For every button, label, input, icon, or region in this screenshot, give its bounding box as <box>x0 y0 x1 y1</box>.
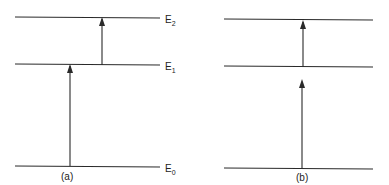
panel-b: (b) <box>224 19 373 183</box>
arrowhead-icon <box>67 64 73 73</box>
level-e0-line <box>15 166 160 167</box>
panel-a-caption: (a) <box>61 171 73 182</box>
level-middle-line <box>224 66 373 67</box>
level-top-line <box>224 19 373 20</box>
arrowhead-icon <box>299 79 305 88</box>
panel-a: E2 E1 E0 (a) <box>15 14 176 182</box>
level-bottom-line <box>224 168 373 169</box>
arrowhead-icon <box>300 20 306 29</box>
energy-level-diagram: E2 E1 E0 (a) (b) <box>0 0 389 185</box>
level-e2-label: E2 <box>165 14 176 27</box>
panel-b-caption: (b) <box>296 172 308 183</box>
level-e2-line <box>15 17 160 18</box>
level-e1-label: E1 <box>165 61 176 74</box>
level-e0-label: E0 <box>165 163 176 176</box>
level-e1-line <box>15 64 160 65</box>
arrowhead-icon <box>99 17 105 26</box>
